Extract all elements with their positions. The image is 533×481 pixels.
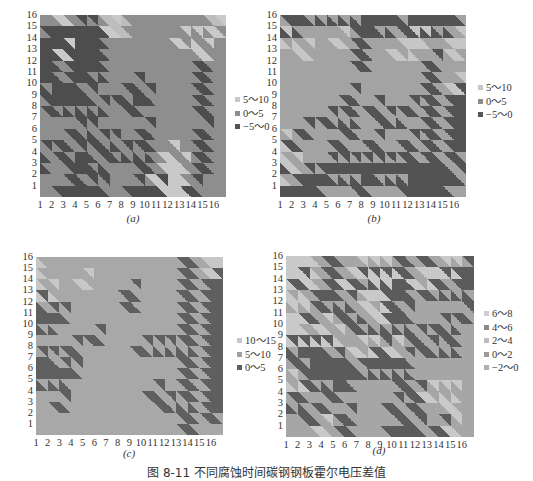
heatmap-cell bbox=[310, 403, 322, 414]
heatmap-cell bbox=[48, 357, 60, 368]
heatmap-cell bbox=[130, 279, 142, 290]
heatmap-cell bbox=[380, 290, 392, 301]
heatmap-cell bbox=[87, 83, 99, 94]
heatmap-cell bbox=[141, 313, 153, 324]
heatmap-cell bbox=[211, 324, 223, 335]
heatmap-cell bbox=[106, 391, 118, 402]
heatmap-cell bbox=[415, 403, 427, 414]
heatmap-cell bbox=[415, 301, 427, 312]
heatmap-cell bbox=[141, 391, 153, 402]
heatmap-cell bbox=[94, 335, 106, 346]
heatmap-cell bbox=[141, 268, 153, 279]
heatmap-cell bbox=[176, 302, 188, 313]
heatmap-cell bbox=[420, 95, 432, 106]
heatmap-cell bbox=[165, 257, 177, 268]
heatmap-cell bbox=[180, 140, 192, 151]
heatmap-cell bbox=[310, 335, 322, 346]
heatmap-cell bbox=[373, 95, 385, 106]
heatmap-cell bbox=[385, 95, 397, 106]
heatmap-cell bbox=[350, 140, 362, 151]
legend-swatch-icon bbox=[484, 338, 489, 343]
heatmap-cell bbox=[338, 152, 350, 163]
heatmap-cell bbox=[98, 38, 110, 49]
y-tick-label: 9 bbox=[17, 330, 33, 340]
heatmap-cell bbox=[188, 257, 200, 268]
heatmap-cell bbox=[75, 83, 87, 94]
heatmap-cell bbox=[133, 152, 145, 163]
heatmap-cell bbox=[368, 324, 380, 335]
heatmap-cell bbox=[165, 335, 177, 346]
heatmap-cell bbox=[98, 15, 110, 26]
heatmap-cell bbox=[310, 324, 322, 335]
heatmap-cell bbox=[156, 117, 168, 128]
heatmap-cell bbox=[345, 301, 357, 312]
heatmap-cell bbox=[52, 72, 64, 83]
heatmap-cell bbox=[94, 424, 106, 435]
heatmap-cell bbox=[396, 26, 408, 37]
y-tick-label: 3 bbox=[21, 158, 37, 168]
heatmap-cell bbox=[106, 302, 118, 313]
heatmap-cell bbox=[368, 335, 380, 346]
heatmap-cell bbox=[303, 174, 315, 185]
heatmap-cell bbox=[75, 72, 87, 83]
heatmap-cell bbox=[361, 15, 373, 26]
heatmap-cell bbox=[106, 324, 118, 335]
heatmap-cell bbox=[36, 357, 48, 368]
y-tick-label: 10 bbox=[17, 319, 33, 329]
heatmap-cell bbox=[203, 83, 215, 94]
heatmap-cell bbox=[188, 413, 200, 424]
heatmap-cell bbox=[292, 26, 304, 37]
heatmap-cell bbox=[439, 301, 451, 312]
heatmap-cell bbox=[156, 186, 168, 197]
y-tick-label: 7 bbox=[267, 353, 283, 363]
heatmap-cell bbox=[327, 117, 339, 128]
heatmap-cell bbox=[357, 347, 369, 358]
legend-swatch-icon bbox=[478, 99, 483, 104]
heatmap-cell bbox=[153, 402, 165, 413]
heatmap-cell bbox=[118, 335, 130, 346]
heatmap-cell bbox=[408, 83, 420, 94]
heatmap-cell bbox=[462, 369, 474, 380]
heatmap-cell bbox=[121, 26, 133, 37]
heatmap-cell bbox=[462, 267, 474, 278]
heatmap-cell bbox=[408, 152, 420, 163]
heatmap-cell bbox=[52, 26, 64, 37]
heatmap-cell bbox=[133, 72, 145, 83]
legend-swatch-icon bbox=[484, 311, 489, 316]
heatmap-cell bbox=[333, 301, 345, 312]
heatmap-cell bbox=[211, 379, 223, 390]
heatmap-cell bbox=[203, 95, 215, 106]
heatmap-cell bbox=[380, 347, 392, 358]
heatmap-cell bbox=[145, 129, 157, 140]
y-tick-label: 13 bbox=[17, 285, 33, 295]
heatmap-cell bbox=[385, 72, 397, 83]
heatmap-cell bbox=[431, 72, 443, 83]
heatmap-cell bbox=[106, 368, 118, 379]
heatmap-cell bbox=[392, 414, 404, 425]
heatmap-cell bbox=[118, 368, 130, 379]
heatmap-cell bbox=[36, 335, 48, 346]
heatmap-cell bbox=[427, 426, 439, 437]
heatmap-cell bbox=[176, 413, 188, 424]
heatmap-cell bbox=[315, 26, 327, 37]
heatmap-cell bbox=[121, 61, 133, 72]
heatmap-cell bbox=[385, 83, 397, 94]
heatmap-cell bbox=[380, 313, 392, 324]
heatmap-cell bbox=[63, 49, 75, 60]
heatmap-cell bbox=[310, 279, 322, 290]
heatmap-cell bbox=[439, 392, 451, 403]
heatmap-cell bbox=[286, 301, 298, 312]
y-tick-label: 14 bbox=[267, 274, 283, 284]
heatmap-cell bbox=[110, 140, 122, 151]
heatmap-cell bbox=[420, 186, 432, 197]
legend-swatch-icon bbox=[478, 85, 483, 90]
heatmap-cell bbox=[130, 424, 142, 435]
heatmap-cell bbox=[345, 279, 357, 290]
heatmap-cell bbox=[303, 129, 315, 140]
heatmap-cell bbox=[280, 129, 292, 140]
heatmap-cell bbox=[298, 347, 310, 358]
y-tick-label: 2 bbox=[17, 408, 33, 418]
heatmap-cell bbox=[121, 152, 133, 163]
heatmap-cell bbox=[303, 38, 315, 49]
heatmap-cell bbox=[357, 335, 369, 346]
